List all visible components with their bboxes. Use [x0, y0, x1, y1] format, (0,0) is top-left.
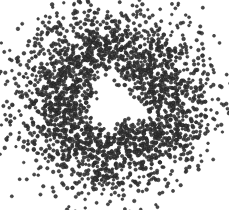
scatter-plot-figure — [0, 0, 229, 210]
scatter-plot-canvas — [0, 0, 229, 210]
